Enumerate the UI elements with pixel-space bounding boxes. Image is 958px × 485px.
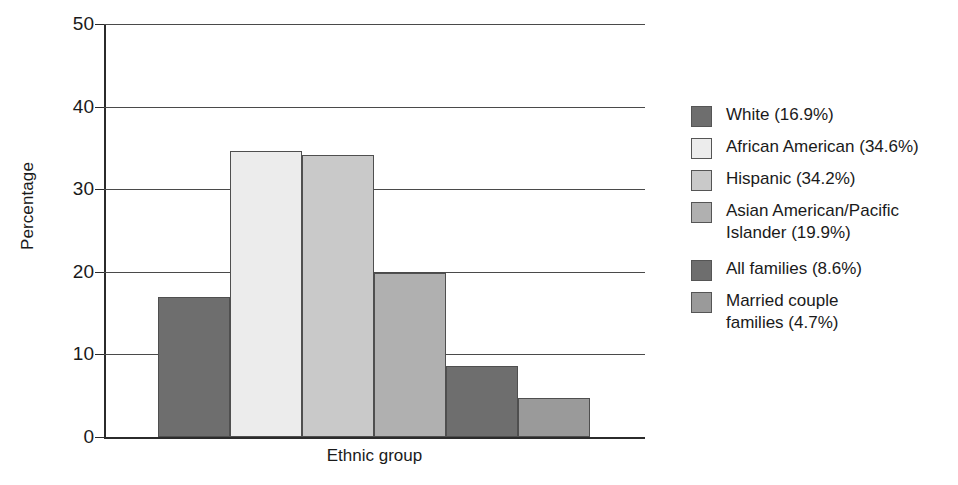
- legend-label: Hispanic (34.2%): [726, 168, 855, 190]
- y-axis-tick: [95, 24, 104, 25]
- chart-legend: White (16.9%)African American (34.6%)His…: [691, 104, 957, 343]
- legend-item[interactable]: Married couple families (4.7%): [691, 290, 957, 334]
- y-tick-label: 50: [50, 14, 94, 33]
- y-axis-tick: [95, 272, 104, 273]
- bar: [518, 398, 590, 437]
- y-axis-tick: [95, 189, 104, 190]
- y-axis-tick-labels: 50403020100: [36, 0, 94, 485]
- gridline: [104, 24, 645, 25]
- legend-swatch-icon: [691, 138, 712, 159]
- y-tick-label: 10: [50, 344, 94, 363]
- y-tick-label: 40: [50, 97, 94, 116]
- bar: [446, 366, 518, 437]
- legend-item[interactable]: African American (34.6%): [691, 136, 957, 159]
- legend-swatch-icon: [691, 292, 712, 313]
- x-axis-title: Ethnic group: [104, 446, 645, 466]
- plot-area: [104, 24, 645, 437]
- y-axis-tick: [95, 354, 104, 355]
- y-tick-label: 30: [50, 179, 94, 198]
- y-tick-label: 0: [50, 427, 94, 446]
- legend-item[interactable]: Asian American/Pacific Islander (19.9%): [691, 200, 957, 244]
- legend-item[interactable]: Hispanic (34.2%): [691, 168, 957, 191]
- bar-chart-figure: Percentage 50403020100 Ethnic group Whit…: [0, 0, 958, 485]
- bar: [158, 297, 230, 437]
- legend-item[interactable]: All families (8.6%): [691, 258, 957, 281]
- y-axis-tick: [95, 107, 104, 108]
- legend-label: Married couple families (4.7%): [726, 290, 838, 334]
- gridline: [104, 189, 645, 190]
- y-axis-line: [104, 24, 106, 437]
- legend-swatch-icon: [691, 202, 712, 223]
- legend-swatch-icon: [691, 260, 712, 281]
- legend-label: All families (8.6%): [726, 258, 862, 280]
- legend-label: Asian American/Pacific Islander (19.9%): [726, 200, 899, 244]
- y-tick-label: 20: [50, 262, 94, 281]
- legend-label: African American (34.6%): [726, 136, 919, 158]
- bar: [302, 155, 374, 437]
- y-axis-title: Percentage: [18, 126, 38, 286]
- legend-item[interactable]: White (16.9%): [691, 104, 957, 127]
- legend-label: White (16.9%): [726, 104, 834, 126]
- legend-swatch-icon: [691, 170, 712, 191]
- gridline: [104, 107, 645, 108]
- y-axis-tick: [95, 437, 104, 438]
- legend-swatch-icon: [691, 106, 712, 127]
- bar: [374, 273, 446, 437]
- x-axis-line: [104, 437, 645, 439]
- bar: [230, 151, 302, 437]
